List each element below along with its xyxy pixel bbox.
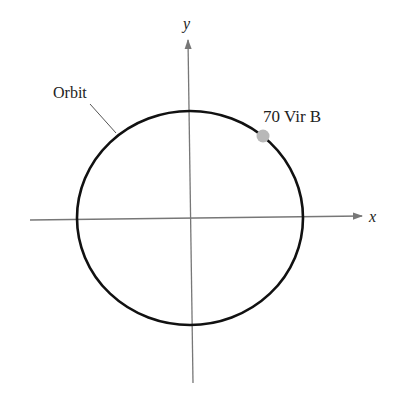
orbit-diagram: x y Orbit 70 Vir B (0, 0, 397, 398)
orbit-label: Orbit (53, 84, 87, 101)
y-axis (188, 40, 193, 383)
planet-label: 70 Vir B (263, 107, 321, 126)
orbit-leader-line (90, 104, 116, 133)
y-axis-label: y (181, 15, 191, 33)
x-axis (30, 216, 362, 220)
x-axis-label: x (368, 208, 376, 225)
planet-70-vir-b (257, 130, 270, 143)
